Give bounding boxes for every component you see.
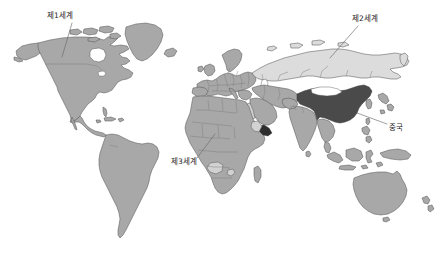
annotation-label-second-world: 제2세계 bbox=[352, 15, 378, 23]
annotation-label-china: 중국 bbox=[389, 124, 403, 132]
world-map-figure: .land { fill:#a8a8a8; stroke:#5a5a5a; st… bbox=[0, 0, 437, 263]
annotation-label-third-world: 제3세계 bbox=[171, 158, 197, 166]
annotation-label-first-world: 제1세계 bbox=[47, 12, 73, 20]
world-map-svg: .land { fill:#a8a8a8; stroke:#5a5a5a; st… bbox=[0, 0, 437, 263]
